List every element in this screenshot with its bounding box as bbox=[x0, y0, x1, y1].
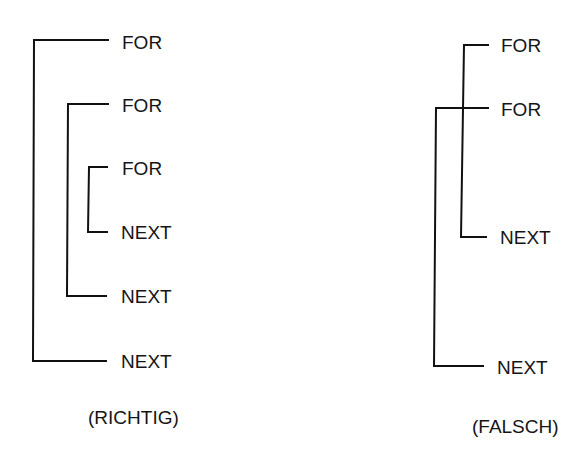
falsch-for-label-1: FOR bbox=[501, 36, 541, 55]
richtig-next-label-1: NEXT bbox=[121, 352, 172, 371]
falsch-first-loop-bracket bbox=[461, 45, 489, 237]
richtig-next-label-2: NEXT bbox=[121, 287, 172, 306]
falsch-next-label-1: NEXT bbox=[500, 228, 551, 247]
richtig-for-label-3: FOR bbox=[122, 159, 162, 178]
falsch-caption: (FALSCH) bbox=[472, 417, 559, 436]
richtig-inner-loop-bracket bbox=[88, 167, 108, 232]
richtig-caption: (RICHTIG) bbox=[88, 408, 179, 427]
richtig-for-label-1: FOR bbox=[122, 33, 162, 52]
richtig-next-label-3: NEXT bbox=[121, 223, 172, 242]
richtig-brackets bbox=[33, 40, 109, 361]
falsch-for-label-2: FOR bbox=[501, 100, 541, 119]
richtig-outer-loop-bracket bbox=[33, 40, 109, 361]
richtig-for-label-2: FOR bbox=[122, 96, 162, 115]
falsch-brackets bbox=[434, 45, 489, 366]
falsch-next-label-2: NEXT bbox=[497, 358, 548, 377]
